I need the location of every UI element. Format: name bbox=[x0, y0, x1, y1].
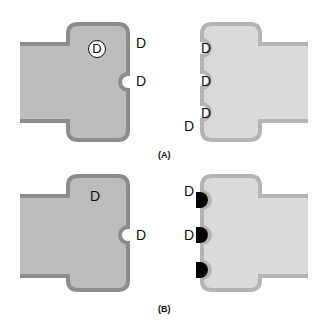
panel-b-right-label-1: D bbox=[184, 184, 194, 198]
panel-a-right-label-1: D bbox=[201, 41, 211, 55]
panel-b-right-label-2: D bbox=[184, 228, 194, 242]
panel-a-right-label-3: D bbox=[201, 106, 211, 120]
diagram-canvas bbox=[0, 0, 331, 329]
circled-label-d: D bbox=[88, 40, 106, 58]
panel-a-left-label-2: D bbox=[136, 74, 146, 88]
panel-b-caption: (B) bbox=[158, 305, 171, 314]
panel-a-left-shape bbox=[18, 24, 128, 140]
panel-a-left-label-1: D bbox=[136, 36, 146, 50]
panel-a-right-label-2: D bbox=[201, 74, 211, 88]
panel-a-caption: (A) bbox=[158, 151, 171, 160]
panel-b-right-shape bbox=[202, 176, 310, 290]
panel-b-left-label-2: D bbox=[136, 228, 146, 242]
panel-b-left-label-1: D bbox=[90, 189, 100, 203]
panel-a-right-label-4: D bbox=[184, 119, 194, 133]
panel-a-right-shape bbox=[202, 24, 310, 140]
panel-b-left-shape bbox=[18, 176, 128, 290]
